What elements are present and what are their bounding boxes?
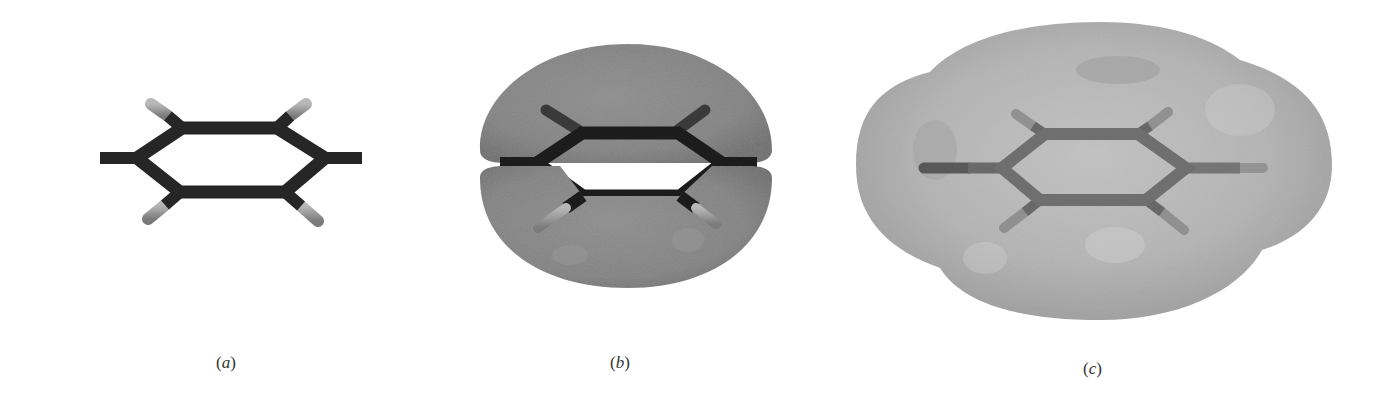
benzene-figure: (a) (b) (c) <box>0 0 1379 402</box>
panel-label-a: (a) <box>216 353 236 373</box>
panel-label-b: (b) <box>610 353 630 373</box>
panel-c-molecule <box>856 22 1332 320</box>
pi-cloud-lower-lobe <box>480 166 772 288</box>
pi-cloud-upper-lobe <box>480 44 772 163</box>
panel-label-c: (c) <box>1083 359 1102 379</box>
panel-a-molecule <box>66 104 396 221</box>
figure-artwork <box>0 0 1379 402</box>
benzene-ring <box>137 128 325 192</box>
panel-b-molecule <box>458 44 794 288</box>
